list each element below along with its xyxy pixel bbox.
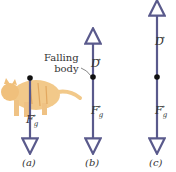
- d-label-c: ⃗D: [163, 35, 172, 48]
- body-dot-a: [27, 75, 33, 81]
- fg-label-c: ⃗Fg: [163, 104, 175, 119]
- d-label-b: ⃗D: [99, 57, 108, 70]
- falling-body-annotation: Fallingbody: [44, 52, 79, 74]
- cat-image: [1, 78, 80, 117]
- fg-label-a: ⃗Fg: [34, 113, 46, 128]
- callout-line: [81, 68, 91, 76]
- body-dot-c: [154, 74, 160, 80]
- diagram: Fallingbody ⃗Fg ⃗D ⃗Fg ⃗D ⃗Fg (a) (b) (c…: [0, 0, 176, 172]
- caption-b: (b): [85, 157, 99, 168]
- body-dot-b: [90, 74, 96, 80]
- caption-c: (c): [149, 157, 162, 168]
- diagram-graphics: [0, 0, 176, 172]
- fg-label-b: ⃗Fg: [99, 104, 111, 119]
- caption-a: (a): [22, 157, 36, 168]
